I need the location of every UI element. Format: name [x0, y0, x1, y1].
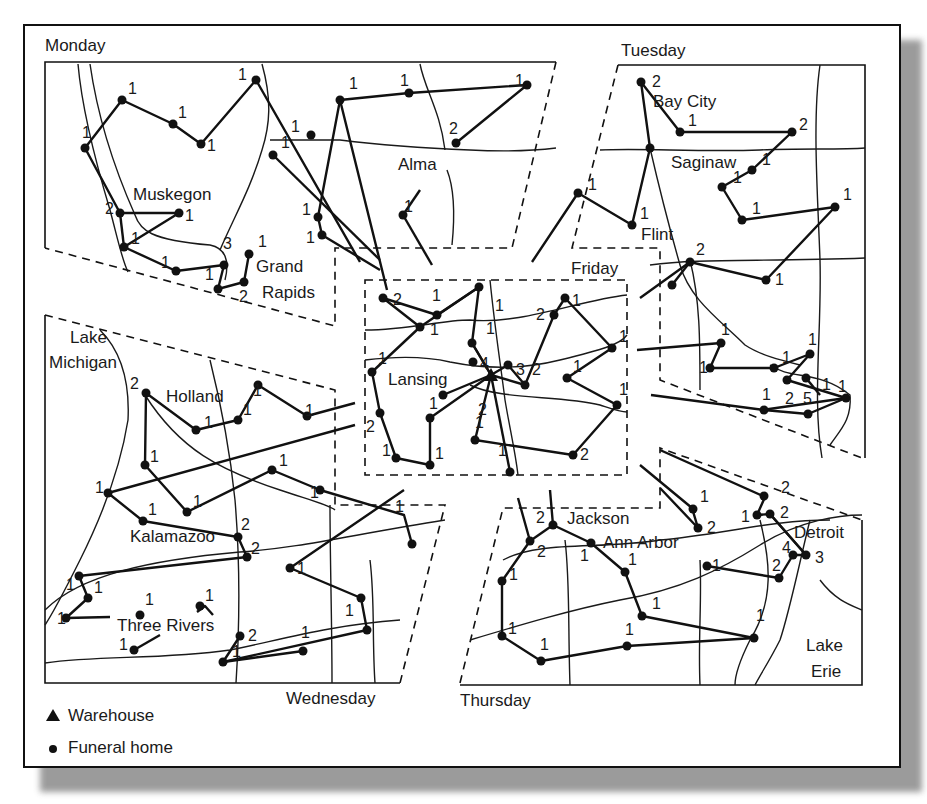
svg-text:1: 1 [119, 636, 128, 653]
svg-text:2: 2 [707, 519, 716, 536]
svg-text:2: 2 [536, 509, 545, 526]
svg-text:1: 1 [205, 266, 214, 283]
svg-text:1: 1 [310, 484, 319, 501]
svg-text:1: 1 [404, 198, 413, 215]
svg-text:1: 1 [572, 292, 581, 309]
city-lansing: Lansing [388, 370, 448, 389]
city-grand: Grand [256, 257, 303, 276]
day-label-thursday: Thursday [460, 691, 531, 710]
city-holland: Holland [166, 387, 224, 406]
svg-text:1: 1 [838, 378, 847, 395]
svg-text:1: 1 [345, 602, 354, 619]
city-jackson: Jackson [567, 509, 629, 528]
svg-text:1: 1 [204, 414, 213, 431]
svg-text:1: 1 [640, 205, 649, 222]
city-ann-arbor: Ann Arbor [603, 533, 679, 552]
route-map: 11 11 12 11 13 11 21 11 11 21 11 21 21 1… [0, 0, 927, 804]
city-rapids: Rapids [262, 283, 315, 302]
legend-label-funeral-home: Funeral home [68, 738, 173, 758]
svg-text:1: 1 [822, 376, 831, 393]
city-lake-michigan-2: Michigan [49, 353, 117, 372]
svg-text:1: 1 [509, 566, 518, 583]
svg-text:2: 2 [251, 540, 260, 557]
svg-text:1: 1 [301, 624, 310, 641]
svg-text:1: 1 [580, 547, 589, 564]
city-alma: Alma [398, 155, 437, 174]
svg-text:1: 1 [232, 643, 241, 660]
svg-text:1: 1 [762, 386, 771, 403]
svg-text:2: 2 [130, 375, 139, 392]
svg-text:2: 2 [532, 361, 541, 378]
svg-text:1: 1 [94, 579, 103, 596]
svg-text:1: 1 [178, 104, 187, 121]
city-labels: Muskegon Grand Rapids Alma Bay City Sagi… [49, 92, 844, 681]
svg-text:1: 1 [82, 124, 91, 141]
svg-text:2: 2 [393, 291, 402, 308]
svg-text:1: 1 [253, 382, 262, 399]
svg-text:1: 1 [205, 587, 214, 604]
svg-text:1: 1 [193, 493, 202, 510]
svg-text:2: 2 [580, 446, 589, 463]
svg-text:1: 1 [486, 320, 495, 337]
svg-text:2: 2 [780, 504, 789, 521]
svg-text:1: 1 [95, 479, 104, 496]
svg-text:2: 2 [478, 401, 487, 418]
svg-text:1: 1 [302, 201, 311, 218]
svg-text:1: 1 [281, 134, 290, 151]
svg-text:2: 2 [241, 516, 250, 533]
svg-text:1: 1 [207, 137, 216, 154]
svg-text:2: 2 [105, 200, 114, 217]
svg-text:2: 2 [772, 557, 781, 574]
svg-text:3: 3 [223, 235, 232, 252]
svg-text:2: 2 [536, 306, 545, 323]
legend-item-warehouse: Warehouse [46, 700, 173, 732]
svg-text:1: 1 [712, 557, 721, 574]
city-bay-city: Bay City [653, 92, 717, 111]
svg-text:4: 4 [480, 355, 489, 372]
svg-text:1: 1 [652, 595, 661, 612]
svg-text:2: 2 [366, 418, 375, 435]
svg-text:1: 1 [756, 607, 765, 624]
roads [45, 64, 865, 685]
svg-text:1: 1 [843, 186, 852, 203]
svg-text:1: 1 [429, 395, 438, 412]
city-lake-erie-1: Lake [806, 636, 843, 655]
svg-text:1: 1 [435, 445, 444, 462]
svg-text:1: 1 [619, 381, 628, 398]
svg-text:1: 1 [495, 297, 504, 314]
svg-text:1: 1 [588, 176, 597, 193]
svg-text:1: 1 [57, 610, 66, 627]
svg-text:2: 2 [537, 543, 546, 560]
svg-text:2: 2 [449, 120, 458, 137]
svg-text:1: 1 [700, 488, 709, 505]
svg-text:1: 1 [238, 66, 247, 83]
svg-text:2: 2 [239, 288, 248, 305]
svg-text:1: 1 [378, 350, 387, 367]
svg-text:1: 1 [150, 448, 159, 465]
svg-text:1: 1 [808, 331, 817, 348]
svg-text:1: 1 [762, 151, 771, 168]
svg-text:1: 1 [775, 271, 784, 288]
svg-text:1: 1 [508, 620, 517, 637]
svg-text:1: 1 [498, 442, 507, 459]
svg-text:1: 1 [628, 551, 637, 568]
svg-text:1: 1 [688, 112, 697, 129]
svg-text:3: 3 [815, 549, 824, 566]
city-detroit: Detroit [794, 523, 844, 542]
svg-text:1: 1 [395, 498, 404, 515]
svg-text:3: 3 [516, 361, 525, 378]
svg-text:1: 1 [243, 401, 252, 418]
city-lake-michigan-1: Lake [70, 328, 107, 347]
svg-text:1: 1 [382, 442, 391, 459]
svg-text:2: 2 [785, 390, 794, 407]
svg-text:1: 1 [161, 254, 170, 271]
svg-text:2: 2 [799, 116, 808, 133]
svg-text:1: 1 [185, 207, 194, 224]
svg-text:4: 4 [782, 539, 791, 556]
map-legend: Warehouse Funeral home [46, 700, 173, 764]
day-label-monday: Monday [45, 36, 106, 55]
svg-text:1: 1 [721, 321, 730, 338]
svg-text:2: 2 [652, 73, 661, 90]
svg-text:5: 5 [803, 390, 812, 407]
city-lake-erie-2: Erie [811, 662, 841, 681]
